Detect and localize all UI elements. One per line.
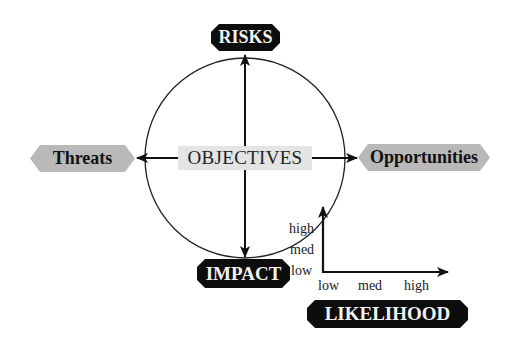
likelihood-tick-med: med — [358, 279, 382, 293]
objectives-label: OBJECTIVES — [178, 146, 312, 170]
risk-diagram: RISKS Threats Opportunities OBJECTIVES I… — [0, 0, 510, 344]
risks-badge: RISKS — [211, 24, 280, 51]
impact-tick-low: low — [291, 264, 312, 278]
opportunities-badge: Opportunities — [358, 144, 490, 171]
impact-tick-med: med — [290, 243, 314, 257]
impact-badge: IMPACT — [197, 259, 290, 288]
likelihood-badge: LIKELIHOOD — [307, 300, 468, 328]
likelihood-tick-high: high — [404, 279, 429, 293]
threats-badge: Threats — [30, 145, 135, 172]
diagram-lines — [0, 0, 510, 344]
likelihood-tick-low: low — [318, 279, 339, 293]
impact-tick-high: high — [289, 222, 314, 236]
